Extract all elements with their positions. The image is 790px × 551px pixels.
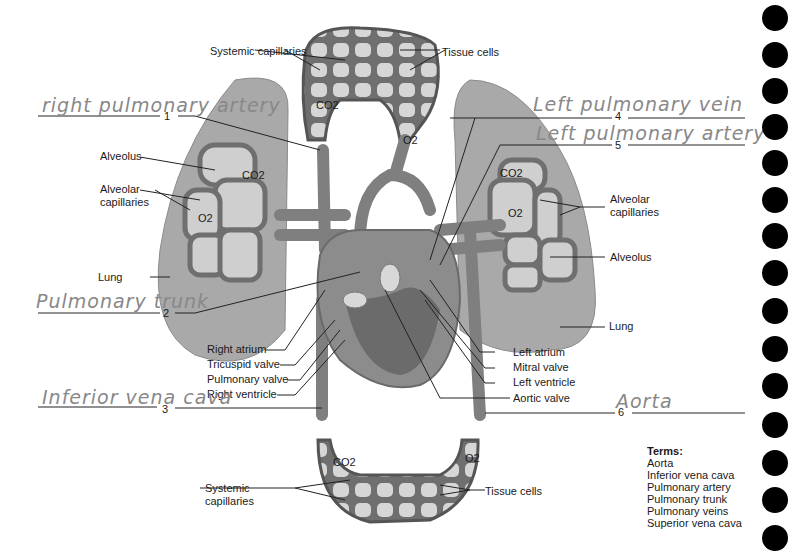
label-left-atrium: Left atrium (513, 346, 565, 359)
binder-hole (762, 260, 788, 286)
binder-hole (762, 187, 788, 213)
label-pulmonary-valve: Pulmonary valve (207, 373, 288, 386)
binder-hole (762, 42, 788, 68)
label-co2-top: CO2 (316, 99, 339, 112)
label-tricuspid-valve: Tricuspid valve (207, 358, 280, 371)
term-item: Inferior vena cava (647, 469, 742, 481)
binder-hole (762, 450, 788, 476)
answer-2-handwriting[interactable]: Pulmonary trunk (36, 290, 209, 312)
label-o2-left: O2 (198, 212, 213, 225)
label-tissue-cells-top: Tissue cells (442, 46, 499, 59)
binder-hole (762, 150, 788, 176)
binder-hole (762, 525, 788, 551)
binder-hole (762, 78, 788, 104)
label-o2-right: O2 (508, 207, 523, 220)
label-left-ventricle: Left ventricle (513, 376, 575, 389)
label-alveolus-right: Alveolus (610, 251, 652, 264)
answer-4-handwriting[interactable]: Left pulmonary vein (533, 93, 743, 115)
binder-hole (762, 298, 788, 324)
term-item: Pulmonary veins (647, 505, 742, 517)
label-aortic-valve: Aortic valve (513, 392, 570, 405)
binder-hole (762, 223, 788, 249)
binder-hole (762, 5, 788, 31)
binder-hole (762, 373, 788, 399)
label-tissue-cells-bottom: Tissue cells (485, 485, 542, 498)
binder-hole (762, 336, 788, 362)
answer-1-handwriting[interactable]: right pulmonary artery (42, 94, 281, 116)
label-co2-right: CO2 (500, 167, 523, 180)
label-systemic-capillaries-bottom: Systemic capillaries (205, 482, 265, 508)
term-item: Superior vena cava (647, 517, 742, 529)
answer-3-handwriting[interactable]: Inferior vena cava (42, 386, 232, 408)
term-item: Pulmonary trunk (647, 493, 742, 505)
term-item: Aorta (647, 457, 742, 469)
answer-5-handwriting[interactable]: Left pulmonary artery (536, 122, 765, 144)
binder-hole (762, 487, 788, 513)
label-o2-bottom: O2 (465, 452, 480, 465)
systemic-capillaries-top (303, 28, 438, 140)
label-alveolar-capillaries-left: Alveolar capillaries (100, 183, 150, 209)
terms-list: Terms: Aorta Inferior vena cava Pulmonar… (647, 445, 742, 529)
label-mitral-valve: Mitral valve (513, 361, 569, 374)
binder-hole (762, 412, 788, 438)
label-co2-left: CO2 (242, 169, 265, 182)
label-lung-left: Lung (98, 271, 122, 284)
label-lung-right: Lung (609, 320, 633, 333)
term-item: Pulmonary artery (647, 481, 742, 493)
label-o2-top: O2 (403, 134, 418, 147)
label-systemic-capillaries-top: Systemic capillaries (210, 45, 307, 58)
binder-hole (762, 114, 788, 140)
answer-6-handwriting[interactable]: Aorta (616, 390, 673, 412)
label-alveolus-left: Alveolus (100, 150, 142, 163)
label-right-atrium: Right atrium (207, 343, 266, 356)
terms-title: Terms: (647, 445, 742, 457)
label-alveolar-capillaries-right: Alveolar capillaries (610, 193, 665, 219)
label-co2-bottom: CO2 (333, 456, 356, 469)
